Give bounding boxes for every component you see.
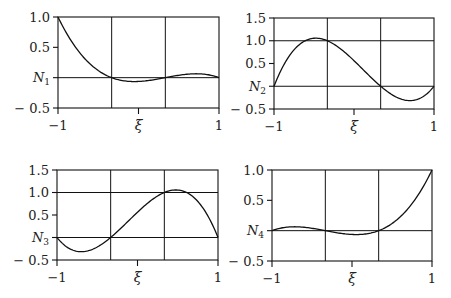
plot-frame	[58, 17, 219, 108]
plot-frame	[272, 170, 432, 261]
shape-functions-figure: 1.00.5N1− 0.5−11ξ1.51.00.5N2− 0.5−11ξ1.5…	[0, 0, 451, 298]
y-tick-label: 1.0	[243, 163, 264, 178]
x-axis-label: ξ	[348, 270, 357, 286]
y-tick-label: 0.5	[243, 193, 264, 208]
y-tick-label: 1.5	[245, 11, 266, 26]
plot-frame	[57, 170, 218, 260]
x-axis-label: ξ	[134, 269, 143, 285]
y-axis-label: N3	[31, 230, 49, 247]
shape-function-curve	[274, 38, 434, 100]
x-tick-label: 1	[214, 270, 222, 285]
y-tick-label: 1.5	[28, 163, 49, 178]
shape-function-curve	[272, 170, 432, 235]
y-tick-label: 1.0	[28, 185, 49, 200]
y-tick-label: 0.5	[29, 40, 50, 55]
x-tick-label: 1	[428, 271, 436, 286]
x-tick-label: −1	[47, 270, 66, 285]
subplot-n1: 1.00.5N1− 0.5−11ξ	[14, 10, 223, 134]
subplot-n3: 1.51.00.5N3− 0.5−11ξ	[13, 163, 222, 286]
x-axis-label: ξ	[135, 117, 144, 133]
y-tick-label: − 0.5	[228, 254, 264, 269]
x-tick-label: −1	[48, 118, 67, 133]
shape-function-curve	[58, 17, 219, 82]
y-tick-label: − 0.5	[13, 253, 49, 268]
x-tick-label: −1	[264, 119, 283, 134]
y-tick-label: 1.0	[245, 33, 266, 48]
x-tick-label: 1	[430, 119, 438, 134]
subplot-n2: 1.51.00.5N2− 0.5−11ξ	[230, 11, 438, 135]
x-axis-label: ξ	[350, 118, 359, 134]
x-tick-label: 1	[215, 118, 223, 133]
y-tick-label: − 0.5	[14, 101, 50, 116]
y-tick-label: 0.5	[28, 208, 49, 223]
y-axis-label: N2	[248, 79, 266, 96]
y-axis-label: N4	[246, 223, 264, 240]
y-tick-label: − 0.5	[230, 102, 266, 117]
x-tick-label: −1	[262, 271, 281, 286]
y-axis-label: N1	[32, 70, 50, 87]
shape-function-curve	[57, 190, 218, 252]
plot-frame	[274, 18, 434, 109]
y-tick-label: 1.0	[29, 10, 50, 25]
y-tick-label: 0.5	[245, 56, 266, 71]
subplot-n4: 1.00.5N4− 0.5−11ξ	[228, 163, 436, 287]
